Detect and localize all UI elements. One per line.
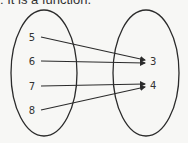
range-element-4: 4 [150,80,156,91]
domain-element-6: 6 [29,56,35,67]
arrow-7-to-4 [41,84,145,86]
domain-labels: 5678 [29,32,35,116]
domain-element-7: 7 [29,81,35,92]
domain-element-5: 5 [29,32,35,43]
arrow-5-to-3 [41,37,145,60]
range-labels: 34 [150,56,156,91]
mapping-arrows [41,37,145,110]
domain-oval [11,10,77,136]
domain-element-8: 8 [29,105,35,116]
range-oval [113,10,179,136]
arrow-6-to-3 [41,61,145,63]
range-element-3: 3 [150,56,156,67]
arrow-8-to-4 [41,87,145,110]
mapping-diagram: 5678 34 [0,0,188,143]
